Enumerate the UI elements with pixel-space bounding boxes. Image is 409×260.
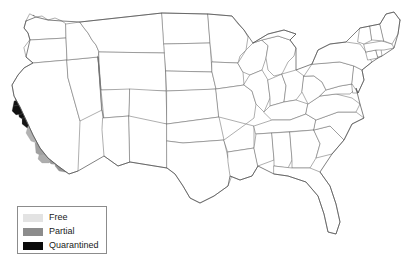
state-outlines — [12, 12, 400, 234]
state-mississippi — [254, 133, 274, 166]
state-wyoming — [99, 52, 166, 91]
legend-label-quarantined: Quarantined — [49, 241, 99, 250]
legend-item-quarantined: Quarantined — [23, 239, 106, 252]
legend: Free Partial Quarantined — [17, 206, 107, 254]
legend-label-partial: Partial — [49, 227, 75, 236]
state-florida — [274, 166, 340, 234]
state-nebraska — [166, 71, 216, 91]
state-indiana — [268, 74, 286, 106]
state-south-dakota — [164, 43, 212, 72]
legend-swatch-quarantined — [23, 242, 43, 250]
legend-item-partial: Partial — [23, 225, 106, 238]
state-vermont — [358, 26, 372, 44]
state-georgia — [290, 130, 320, 168]
state-arkansas — [224, 124, 254, 152]
state-oregon — [24, 38, 67, 63]
state-new-mexico — [129, 116, 167, 168]
state-washington — [24, 14, 66, 40]
state-iowa — [212, 62, 244, 89]
state-north-dakota — [162, 13, 210, 44]
legend-label-free: Free — [49, 213, 68, 222]
state-arizona — [102, 116, 130, 166]
state-missouri — [216, 85, 256, 124]
map-page: Free Partial Quarantined — [0, 0, 409, 260]
state-michigan — [262, 36, 296, 76]
state-minnesota — [208, 14, 248, 63]
state-alabama — [272, 132, 292, 168]
legend-swatch-free — [23, 214, 43, 222]
state-louisiana — [228, 148, 258, 180]
legend-swatch-partial — [23, 228, 43, 236]
legend-item-free: Free — [23, 211, 106, 224]
state-texas — [167, 140, 234, 203]
